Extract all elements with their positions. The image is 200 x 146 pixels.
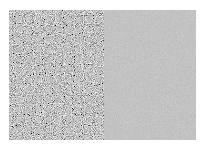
noise-texture xyxy=(9,10,104,140)
image-frame xyxy=(9,10,196,140)
noise-texture-panel xyxy=(9,10,104,140)
flat-texture xyxy=(104,10,196,140)
flat-gray-panel xyxy=(104,10,196,140)
